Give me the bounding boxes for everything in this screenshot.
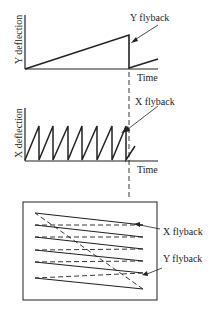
- y-flyback-arrowhead: [131, 37, 138, 43]
- middle-y-axis-label: X deflection: [14, 108, 24, 158]
- x-sawtooth: [25, 126, 135, 160]
- x-flyback-arrow: [128, 106, 158, 129]
- raster-x-flyback-label: X flyback: [163, 227, 203, 237]
- raster-y-flyback-label: Y flyback: [163, 254, 202, 264]
- x-flyback-label: X flyback: [135, 97, 175, 107]
- y-flyback-pointer: [147, 268, 162, 274]
- top-y-axis-label: Y deflection: [14, 15, 24, 64]
- scan-diagram: [0, 0, 209, 315]
- y-ramp: [25, 35, 129, 69]
- middle-x-axis-label: Time: [137, 165, 158, 175]
- y-ramp-next: [129, 59, 158, 68]
- top-x-axis-label: Time: [137, 73, 158, 83]
- y-flyback-label: Y flyback: [130, 13, 169, 23]
